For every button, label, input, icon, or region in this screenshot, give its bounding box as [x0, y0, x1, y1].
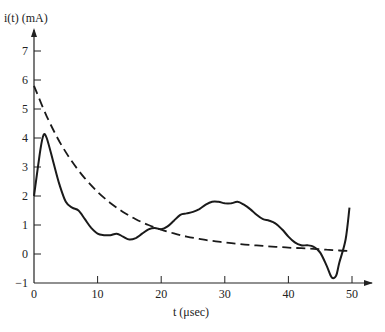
solid-curve	[34, 134, 350, 278]
x-tick-label: 30	[219, 287, 231, 301]
ticks: −10123456701020304050	[15, 44, 358, 301]
x-tick-label: 40	[282, 287, 294, 301]
y-tick-label: 5	[22, 102, 28, 116]
y-tick-label: 4	[22, 131, 28, 145]
dashed-curve	[34, 86, 352, 251]
axes	[31, 28, 373, 286]
series	[34, 86, 352, 278]
x-tick-label: 10	[92, 287, 104, 301]
y-axis-arrow-icon	[31, 28, 37, 37]
y-axis-title: i(t) (mA)	[4, 11, 48, 25]
y-tick-label: 0	[22, 247, 28, 261]
x-tick-label: 20	[155, 287, 167, 301]
x-axis-title: t (μsec)	[173, 305, 209, 319]
y-tick-label: 2	[22, 189, 28, 203]
x-tick-label: 50	[346, 287, 358, 301]
y-tick-label: 6	[22, 73, 28, 87]
y-tick-label: 1	[22, 218, 28, 232]
y-tick-label: −1	[15, 276, 28, 290]
chart: −10123456701020304050 i(t) (mA) t (μsec)	[0, 0, 385, 332]
x-axis-arrow-icon	[364, 280, 373, 286]
y-tick-label: 3	[22, 160, 28, 174]
x-tick-label: 0	[31, 287, 37, 301]
y-tick-label: 7	[22, 44, 28, 58]
